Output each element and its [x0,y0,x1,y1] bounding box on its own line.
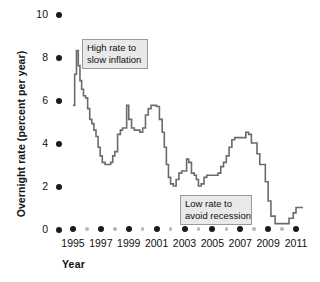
annotation-line-2: slow inflation [87,54,143,66]
low-rate-annotation: Low rate toavoid recession [180,195,252,225]
plot-area [0,0,320,282]
annotation-line-1: High rate to [87,42,143,54]
high-rate-annotation: High rate toslow inflation [82,39,148,69]
annotation-line-2: avoid recession [185,210,247,222]
annotation-line-1: Low rate to [185,198,247,210]
chart-container: Overnight rate (percent per year) Year 0… [0,0,320,282]
